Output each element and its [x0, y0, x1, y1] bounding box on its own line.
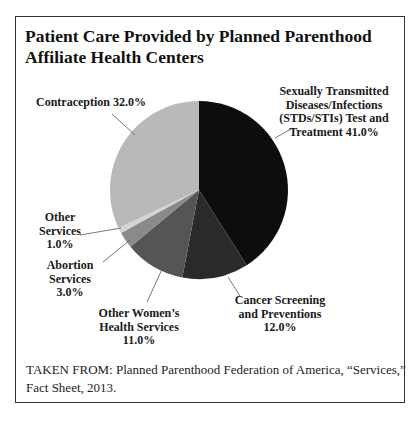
label-abortion-line2: Services [40, 273, 100, 287]
label-cancer-line1: Cancer Screening [225, 294, 335, 308]
label-abortion-line1: Abortion [40, 259, 100, 273]
label-std-line1: Sexually Transmitted [278, 85, 390, 99]
label-women-line1: Other Women’s [96, 307, 182, 321]
label-contraception: Contraception 32.0% [36, 96, 146, 110]
pie-slices [110, 101, 288, 279]
leader-line-abortion [103, 240, 130, 262]
leader-line-contraception [112, 114, 135, 135]
leader-line-other [80, 228, 121, 235]
label-std-line2: Diseases/Infections [278, 99, 390, 113]
label-std-line3: (STDs/STIs) Test and [278, 112, 390, 126]
label-other-line3: 1.0% [35, 238, 85, 252]
label-cancer: Cancer Screening and Preventions 12.0% [225, 294, 335, 335]
label-abortion-line3: 3.0% [40, 286, 100, 300]
label-other-line1: Other [35, 211, 85, 225]
label-other: Other Services 1.0% [35, 211, 85, 252]
label-women-line2: Health Services [96, 321, 182, 335]
label-cancer-line2: and Preventions [225, 308, 335, 322]
source-note: TAKEN FROM: Planned Parenthood Federatio… [26, 361, 406, 397]
label-women: Other Women’s Health Services 11.0% [96, 307, 182, 348]
label-cancer-line3: 12.0% [225, 321, 335, 335]
label-other-line2: Services [35, 225, 85, 239]
label-std-line4: Treatment 41.0% [278, 126, 390, 140]
label-women-line3: 11.0% [96, 334, 182, 348]
label-std: Sexually Transmitted Diseases/Infections… [278, 85, 390, 139]
leader-line-women [147, 267, 163, 302]
label-abortion: Abortion Services 3.0% [40, 259, 100, 300]
